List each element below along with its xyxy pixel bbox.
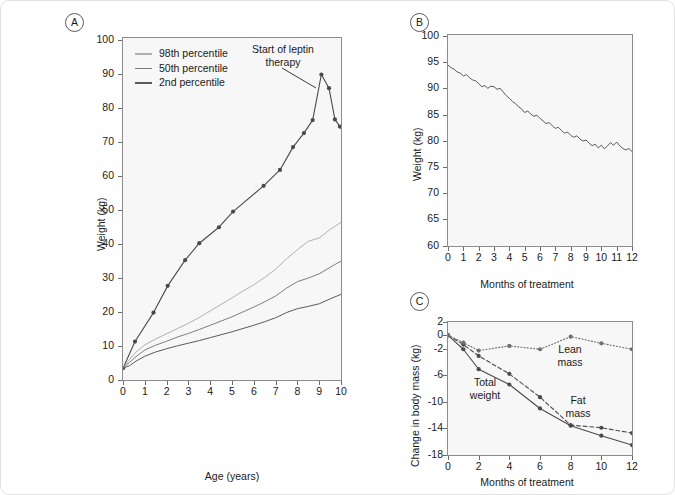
legend-label-2: 2nd percentile (159, 76, 225, 88)
panel-b-ytick-4: 80 (409, 134, 439, 146)
panel-b-ytick-5: 85 (409, 108, 439, 120)
data-point (599, 341, 603, 345)
panel-a-xtick-mark-5 (232, 381, 233, 385)
panel-c-xtick-0: 0 (433, 460, 463, 472)
panel-a: A Weight (kg) Age (years) 01020304050607… (1, 1, 391, 495)
panel-a-xtick-mark-1 (145, 381, 146, 385)
data-point (477, 367, 481, 371)
panel-a-ytick-4: 40 (84, 237, 114, 249)
panel-a-ytick-2: 20 (84, 305, 114, 317)
panel-c-label-fat-mass-line1: Fat (554, 394, 602, 407)
panel-a-xtick-mark-8 (297, 381, 298, 385)
panel-c-tag: C (410, 292, 429, 311)
panel-c-xtick-mark-5 (601, 456, 602, 460)
data-point (278, 168, 282, 172)
panel-a-ytick-7: 70 (84, 135, 114, 147)
data-point (133, 339, 137, 343)
data-point (630, 431, 632, 435)
panel-a-xtick-mark-6 (254, 381, 255, 385)
data-point (302, 131, 306, 135)
panel-c-xtick-mark-0 (448, 456, 449, 460)
data-point (461, 347, 465, 351)
panel-b-ytick-7: 95 (409, 55, 439, 67)
legend-label-1: 50th percentile (159, 62, 228, 74)
panel-a-xtick-10: 10 (326, 385, 356, 397)
data-point (569, 423, 573, 427)
panel-a-ytick-5: 50 (84, 203, 114, 215)
legend-swatch-2 (135, 82, 152, 84)
panel-c-xtick-mark-3 (540, 456, 541, 460)
panel-a-ytick-8: 80 (84, 101, 114, 113)
panel-c-label-total-weight-line2: weight (455, 389, 515, 402)
panel-c-ytick-1: -14 (413, 421, 443, 433)
panel-c-xtick-2: 4 (494, 460, 524, 472)
panel-c-label-total-weight: Total weight (455, 376, 515, 401)
panel-c-ytick-5: 0 (413, 328, 443, 340)
data-point (311, 118, 315, 122)
legend-label-0: 98th percentile (159, 47, 228, 59)
data-point (538, 395, 542, 399)
panel-c-ytick-3: -6 (413, 368, 443, 380)
panel-c-xtick-mark-2 (509, 456, 510, 460)
data-point (166, 284, 170, 288)
panel-a-xtick-mark-4 (210, 381, 211, 385)
series-line-patient-weight (123, 74, 340, 368)
panel-c-xtick-mark-4 (571, 456, 572, 460)
panel-a-ytick-0: 0 (84, 373, 114, 385)
series-line-weight-during-leptin-therapy (448, 65, 632, 152)
panel-b-xtick-mark-12 (632, 247, 633, 251)
data-point (630, 443, 632, 447)
panel-a-x-axis-label: Age (years) (172, 470, 292, 482)
panel-b-ytick-8: 100 (409, 29, 439, 41)
panel-b-ytick-6: 90 (409, 81, 439, 93)
data-point (217, 225, 221, 229)
panel-c-xtick-3: 6 (525, 460, 555, 472)
panel-c-ytick-2: -10 (413, 395, 443, 407)
panel-a-tag: A (65, 13, 84, 32)
data-point (477, 349, 481, 353)
panel-c-ytick-0: -18 (413, 448, 443, 460)
data-point (538, 406, 542, 410)
panel-b-ytick-0: 60 (409, 239, 439, 251)
data-point (291, 145, 295, 149)
panel-a-annotation-leader (281, 67, 323, 93)
panel-c-ytick-4: -2 (413, 342, 443, 354)
panel-a-xtick-mark-3 (188, 381, 189, 385)
data-point (231, 210, 235, 214)
panel-a-annotation-line1: Start of leptin (238, 43, 328, 56)
panel-c-xtick-mark-1 (479, 456, 480, 460)
data-point (569, 335, 573, 339)
legend-swatch-0 (135, 53, 152, 55)
data-point (599, 434, 603, 438)
panel-b-ytick-2: 70 (409, 186, 439, 198)
panel-c-label-lean-mass: Lean mass (546, 343, 594, 368)
panel-c-label-total-weight-line1: Total (455, 376, 515, 389)
panel-b-svg (448, 35, 632, 246)
panel-c-label-lean-mass-line2: mass (546, 356, 594, 369)
data-point (333, 117, 337, 121)
panel-c-xtick-4: 8 (556, 460, 586, 472)
data-point (477, 354, 481, 358)
data-point (538, 347, 542, 351)
panel-b-ytick-3: 75 (409, 160, 439, 172)
panel-c-xtick-6: 12 (617, 460, 647, 472)
panel-a-ytick-9: 90 (84, 67, 114, 79)
panel-c-label-lean-mass-line1: Lean (546, 343, 594, 356)
data-point (197, 241, 201, 245)
panel-b-ytick-1: 65 (409, 212, 439, 224)
data-point (327, 86, 331, 90)
legend-swatch-1 (135, 68, 152, 70)
panel-c-xtick-1: 2 (464, 460, 494, 472)
data-point (183, 258, 187, 262)
panel-a-ytick-10: 100 (84, 33, 114, 45)
series-line-2nd-percentile (123, 294, 341, 368)
panel-c-xtick-mark-6 (632, 456, 633, 460)
panel-a-ytick-6: 60 (84, 169, 114, 181)
panel-a-xtick-mark-2 (167, 381, 168, 385)
panel-a-xtick-mark-10 (341, 381, 342, 385)
panel-b-plot (447, 34, 633, 247)
panel-c: C Change in body mass (kg) Months of tre… (391, 289, 675, 495)
panel-c-label-fat-mass: Fat mass (554, 394, 602, 419)
data-point (262, 184, 266, 188)
figure-container: A Weight (kg) Age (years) 01020304050607… (0, 0, 675, 495)
